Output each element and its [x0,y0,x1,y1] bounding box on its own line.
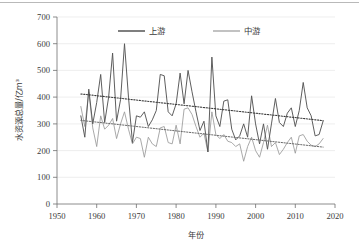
y-axis-title: 水资源总量/亿m³ [14,79,24,141]
y-tick-200: 200 [37,146,50,156]
x-tick-2000: 2000 [247,211,264,221]
x-axis: 1950 1960 1970 1980 1990 2000 2010 2020 [48,204,343,221]
legend-label-upstream: 上游 [149,26,166,36]
x-tick-2010: 2010 [287,211,304,221]
x-tick-2020: 2020 [326,211,343,221]
y-tick-400: 400 [37,92,50,102]
x-tick-1980: 1980 [168,211,185,221]
y-tick-600: 600 [37,39,50,49]
x-tick-1970: 1970 [128,211,145,221]
y-tick-500: 500 [37,65,50,75]
water-resources-line-chart: 700 600 500 400 300 200 100 0 1950 1960 … [0,0,359,248]
x-axis-title: 年份 [188,230,204,240]
chart-canvas: 700 600 500 400 300 200 100 0 1950 1960 … [0,0,359,248]
y-tick-300: 300 [37,119,50,129]
y-tick-700: 700 [37,12,50,22]
x-tick-1950: 1950 [48,211,65,221]
x-tick-1990: 1990 [207,211,224,221]
y-axis: 700 600 500 400 300 200 100 0 [37,12,57,209]
y-tick-100: 100 [37,172,50,182]
legend-label-midstream: 中游 [244,26,261,36]
x-tick-1960: 1960 [88,211,105,221]
y-tick-0: 0 [46,199,50,209]
